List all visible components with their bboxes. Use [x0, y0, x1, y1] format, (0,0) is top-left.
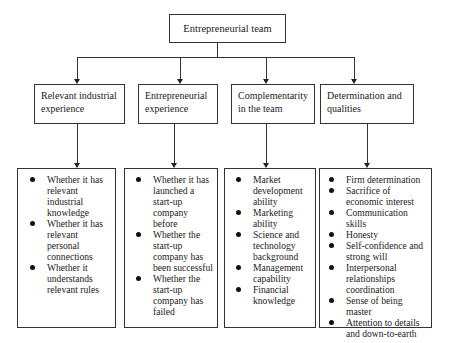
detail-list: Firm determination Sacrifice of economic… [324, 174, 427, 339]
list-item: Management capability [253, 262, 311, 284]
detail-box-complementarity: Market development ability Marketing abi… [224, 168, 316, 328]
list-item: Whether the start-up company has failed [153, 273, 213, 317]
list-item: Marketing ability [253, 207, 311, 229]
list-item: Whether it understands relevant rules [47, 262, 111, 295]
root-label: Entrepreneurial team [183, 23, 271, 34]
detail-box-determination: Firm determination Sacrifice of economic… [319, 168, 432, 328]
list-item: Whether the start-up company has been su… [153, 229, 213, 273]
branch-line-2 [180, 57, 181, 79]
category-node-entrepreneurial-experience: Entrepreneurial experience [138, 84, 218, 124]
list-item: Market development ability [253, 174, 311, 207]
list-item: Science and technology background [253, 229, 311, 262]
branch-line-4 [354, 57, 355, 79]
list-item: Communication skills [346, 207, 427, 229]
category-label: Determination and qualities [327, 90, 402, 114]
detail-line-4 [367, 124, 368, 163]
detail-list: Whether it has relevant industrial knowl… [22, 174, 111, 295]
branch-horizontal-line [77, 57, 355, 58]
category-node-complementarity: Complementarity in the team [231, 84, 315, 124]
root-stem-line [217, 42, 218, 57]
category-label: Complementarity in the team [238, 90, 308, 114]
category-node-industrial-experience: Relevant industrial experience [34, 84, 125, 124]
root-node: Entrepreneurial team [169, 14, 286, 43]
detail-line-2 [174, 124, 175, 163]
list-item: Sacrifice of economic interest [346, 185, 427, 207]
list-item: Firm determination [346, 174, 427, 185]
list-item: Whether it has relevant industrial knowl… [47, 174, 111, 218]
category-label: Entrepreneurial experience [145, 90, 207, 114]
list-item: Sense of being master [346, 295, 427, 317]
list-item: Self-confidence and strong will [346, 240, 427, 262]
list-item: Honesty [346, 229, 427, 240]
list-item: Interpersonal relationships coordination [346, 262, 427, 295]
detail-box-industrial-experience: Whether it has relevant industrial knowl… [17, 168, 116, 328]
list-item: Whether it has launched a start-up compa… [153, 174, 213, 229]
detail-box-entrepreneurial-experience: Whether it has launched a start-up compa… [124, 168, 218, 328]
branch-line-3 [266, 57, 267, 79]
list-item: Financial knowledge [253, 284, 311, 306]
detail-line-1 [77, 124, 78, 163]
detail-line-3 [266, 124, 267, 163]
list-item: Attention to details and down-to-earth [346, 317, 427, 339]
category-node-determination: Determination and qualities [320, 84, 414, 124]
detail-list: Market development ability Marketing abi… [229, 174, 311, 306]
list-item: Whether it has relevant personal connect… [47, 218, 111, 262]
detail-list: Whether it has launched a start-up compa… [129, 174, 213, 317]
branch-line-1 [77, 57, 78, 79]
category-label: Relevant industrial experience [41, 90, 117, 114]
